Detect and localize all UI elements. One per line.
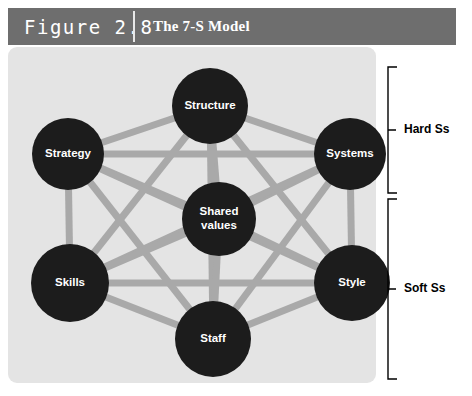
bracket-hard-ss: Hard Ss <box>388 67 450 193</box>
bracket-label: Hard Ss <box>404 122 450 136</box>
node-label: Staff <box>200 332 226 344</box>
node-label: Structure <box>184 99 235 111</box>
node-layer: StructureStrategySystemsSharedvaluesSkil… <box>31 68 390 377</box>
node-label: Skills <box>55 276 85 288</box>
figure-number-cell: Figure 2.8 <box>8 8 133 45</box>
diagram-node-strategy[interactable]: Strategy <box>32 118 104 190</box>
diagram-node-structure[interactable]: Structure <box>172 68 248 144</box>
seven-s-network-diagram: StructureStrategySystemsSharedvaluesSkil… <box>8 47 472 391</box>
node-label: Strategy <box>45 147 92 159</box>
diagram-node-style[interactable]: Style <box>314 245 390 321</box>
bracket-soft-ss: Soft Ss <box>388 199 446 379</box>
diagram-node-shared-values[interactable]: Sharedvalues <box>182 182 256 256</box>
bracket-layer: Hard SsSoft Ss <box>388 67 450 379</box>
figure-root: Figure 2.8 The 7-S Model StructureStrate… <box>0 0 472 396</box>
diagram-node-staff[interactable]: Staff <box>175 301 251 377</box>
page-title: The 7-S Model <box>153 18 250 35</box>
diagram-node-systems[interactable]: Systems <box>314 118 386 190</box>
bracket-shape <box>388 199 397 379</box>
bracket-shape <box>388 67 397 193</box>
figure-header-bar: Figure 2.8 The 7-S Model <box>8 8 456 45</box>
diagram-node-skills[interactable]: Skills <box>31 244 109 322</box>
node-label: Style <box>338 276 366 288</box>
bracket-label: Soft Ss <box>404 281 446 295</box>
figure-title-cell: The 7-S Model <box>135 8 456 45</box>
node-label: Systems <box>326 147 373 159</box>
